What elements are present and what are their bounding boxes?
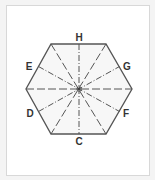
center-dot xyxy=(78,88,80,90)
label-F: F xyxy=(123,108,129,119)
label-G: G xyxy=(123,61,131,72)
label-E: E xyxy=(26,61,33,72)
label-C: C xyxy=(75,136,82,147)
hexagon-symmetry-diagram: H G F C D E xyxy=(0,0,155,180)
label-D: D xyxy=(26,108,33,119)
label-H: H xyxy=(75,32,82,43)
